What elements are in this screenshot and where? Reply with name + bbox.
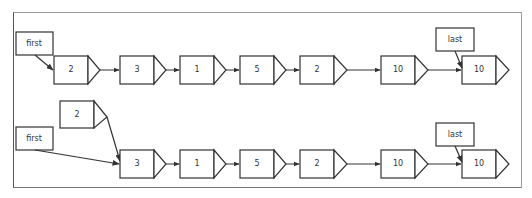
pointer-label-last: last	[448, 131, 462, 139]
list-node	[462, 56, 509, 84]
node-value: 5	[254, 66, 259, 74]
pointer-label-first: first	[26, 40, 42, 48]
new-list-node	[60, 101, 120, 161]
pointer-label-first: first	[26, 135, 42, 143]
node-value: 2	[68, 66, 73, 74]
node-value: 5	[254, 160, 259, 168]
node-value: 10	[474, 160, 484, 168]
list-node	[240, 150, 299, 178]
node-value: 10	[474, 66, 484, 74]
node-value: 2	[314, 160, 319, 168]
list-node	[120, 150, 179, 178]
list-node	[120, 56, 179, 84]
node-value: 10	[393, 66, 403, 74]
pointer-first-top	[16, 32, 53, 70]
pointer-first-bottom	[16, 127, 119, 164]
list-node	[54, 56, 119, 84]
list-node	[180, 56, 239, 84]
list-node	[240, 56, 299, 84]
node-value: 3	[134, 66, 139, 74]
node-value: 10	[393, 160, 403, 168]
list-node	[300, 150, 380, 178]
node-value: 1	[194, 66, 199, 74]
list-node	[300, 56, 380, 84]
node-value: 3	[134, 160, 139, 168]
list-node	[462, 150, 509, 178]
linked-list-diagram	[0, 0, 532, 198]
node-value: 2	[314, 66, 319, 74]
list-node	[180, 150, 239, 178]
node-value: 1	[194, 160, 199, 168]
new-node-value: 2	[74, 111, 79, 119]
pointer-label-last: last	[448, 36, 462, 44]
